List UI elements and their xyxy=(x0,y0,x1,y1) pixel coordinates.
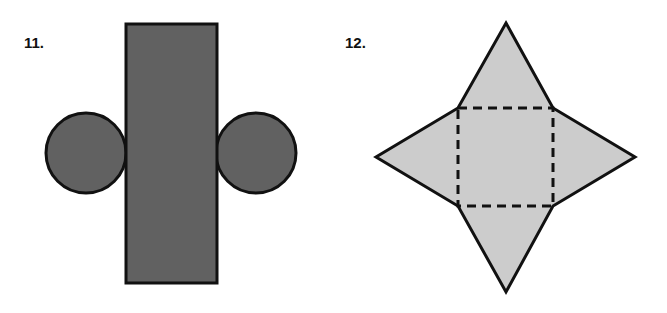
pyramid-net xyxy=(376,23,635,292)
cylinder-base-left xyxy=(46,113,126,193)
figures-canvas xyxy=(0,0,667,313)
cylinder-net xyxy=(46,24,296,283)
pyramid-outline xyxy=(376,23,635,292)
cylinder-base-right xyxy=(216,113,296,193)
cylinder-lateral-rectangle xyxy=(126,24,217,283)
